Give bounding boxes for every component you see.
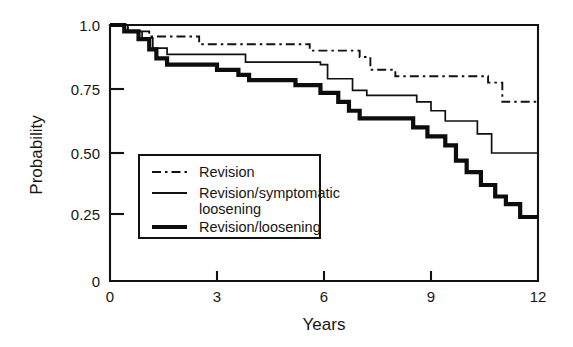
kaplan-meier-chart: 1.0 0.75 0.50 0.25 0 0 3 6 9 12 Probabil… [0, 0, 573, 347]
survival-chart-figure: 1.0 0.75 0.50 0.25 0 0 3 6 9 12 Probabil… [0, 0, 573, 347]
x-tick-label-2: 3 [213, 288, 221, 305]
x-tick-label-1: 0 [106, 288, 114, 305]
y-tick-label-2: 0.75 [71, 81, 100, 98]
x-tick-label-5: 12 [530, 288, 547, 305]
legend-label-symptomatic: Revision/symptomatic [199, 185, 340, 201]
x-tick-label-4: 9 [427, 288, 435, 305]
y-tick-label-4: 0.25 [71, 206, 100, 223]
y-tick-label-5: 0 [92, 273, 100, 290]
legend-label-symptomatic-line2: loosening [199, 201, 261, 217]
y-tick-label-3: 0.50 [71, 145, 100, 162]
legend-label-revision: Revision [199, 164, 255, 180]
legend-label-loosening: Revision/loosening [199, 219, 321, 235]
x-tick-label-3: 6 [320, 288, 328, 305]
y-axis-title: Probability [27, 115, 46, 195]
y-tick-label-1: 1.0 [79, 17, 100, 34]
chart-legend: Revision Revision/symptomatic loosening … [139, 155, 340, 238]
x-axis-title: Years [303, 315, 346, 334]
